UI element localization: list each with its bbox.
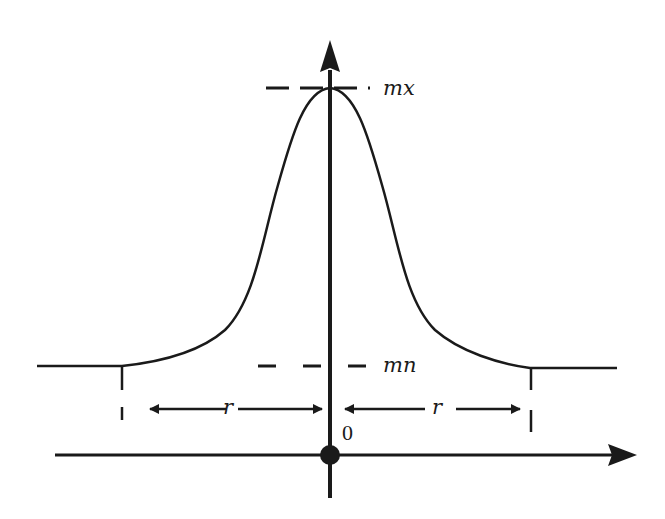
gaussian-diagram: mx mn r r 0 (0, 0, 665, 519)
x-axis-arrow-icon (608, 444, 637, 466)
origin-dot (320, 445, 340, 465)
x-axis (55, 444, 637, 466)
radius-right-label: r (432, 395, 444, 419)
bell-curve (37, 88, 617, 368)
origin-label: 0 (342, 420, 353, 445)
y-axis (320, 40, 340, 498)
y-axis-arrow-icon (320, 40, 340, 72)
min-label: mn (383, 353, 416, 377)
radius-left-label: r (223, 395, 235, 419)
max-label: mx (383, 76, 415, 100)
